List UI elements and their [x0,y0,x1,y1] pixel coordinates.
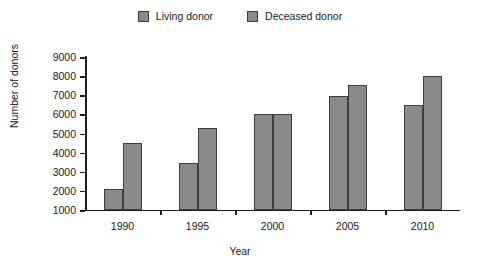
y-axis-tick [80,191,85,193]
legend-swatch-icon-living [138,11,149,22]
y-axis-title: Number of donors [8,21,20,151]
y-axis-tick [80,114,85,116]
legend-label-deceased: Deceased donor [265,10,342,22]
y-axis-tick-label: 2000 [53,185,76,196]
legend-label-living: Living donor [156,10,213,22]
x-axis-tick-label: 2005 [336,220,359,232]
bar-1995-deceased [198,128,217,210]
plot-area: 100020003000400050006000700080009000 199… [85,57,460,210]
y-axis-tick [80,134,85,136]
y-axis-tick-label: 5000 [53,128,76,139]
chart-legend: Living donor Deceased donor [0,10,480,22]
y-axis-tick-label: 9000 [53,52,76,63]
y-axis-line [85,56,87,210]
y-axis-tick-label: 8000 [53,71,76,82]
y-axis-tick-label: 4000 [53,147,76,158]
y-axis-tick-label: 6000 [53,109,76,120]
y-axis-tick-label: 1000 [53,205,76,216]
y-axis-tick [80,95,85,97]
x-axis-tick-label: 2010 [411,220,434,232]
x-axis-tick [235,210,237,215]
bar-2005-deceased [348,85,367,210]
y-axis-tick [80,172,85,174]
bar-1990-living [104,189,123,210]
bar-2010-living [404,105,423,210]
y-axis-tick-label: 7000 [53,90,76,101]
bar-2005-living [329,96,348,210]
bar-2010-deceased [423,76,442,210]
legend-swatch-icon-deceased [247,11,258,22]
legend-item-living-donor: Living donor [138,10,213,22]
bar-1990-deceased [123,143,142,210]
legend-item-deceased-donor: Deceased donor [247,10,342,22]
x-axis-tick-label: 1990 [111,220,134,232]
x-axis-tick-label: 2000 [261,220,284,232]
x-axis-title: Year [0,245,480,257]
y-axis-tick [80,153,85,155]
y-axis-tick-label: 3000 [53,166,76,177]
y-axis-tick [80,210,85,212]
bar-2000-deceased [273,114,292,210]
bar-2000-living [254,114,273,210]
y-axis-tick [80,57,85,59]
x-axis-tick [310,210,312,215]
x-axis-tick-label: 1995 [186,220,209,232]
x-axis-tick [160,210,162,215]
x-axis-tick [385,210,387,215]
y-axis-tick [80,76,85,78]
bar-1995-living [179,163,198,210]
donor-bar-chart: Living donor Deceased donor 100020003000… [0,0,480,277]
